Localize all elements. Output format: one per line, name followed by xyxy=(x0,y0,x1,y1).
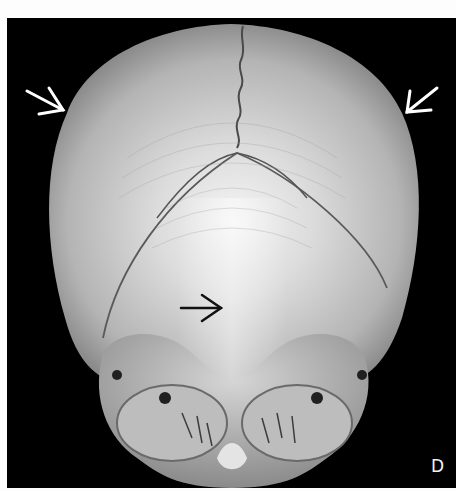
arrow-upper-left xyxy=(27,88,63,114)
orbit-right xyxy=(242,385,352,461)
panel-label: D xyxy=(431,456,444,476)
orbit-left xyxy=(117,385,227,461)
image-frame: D xyxy=(7,18,456,488)
skull-illustration xyxy=(7,18,456,488)
arrow-upper-right xyxy=(407,88,437,112)
